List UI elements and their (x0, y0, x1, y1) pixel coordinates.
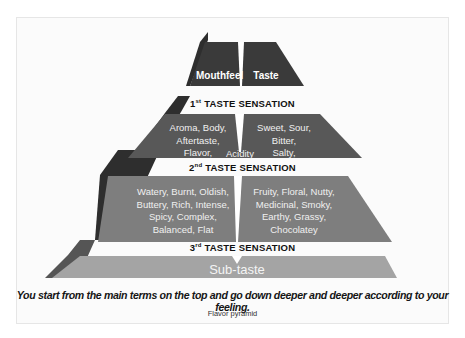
tier4-label: Sub-taste (187, 262, 287, 277)
tier3-right-line: Fruity, Floral, Nutty, (244, 186, 344, 199)
sensation-2-text: TASTE SENSATION (205, 162, 296, 173)
tier2-left-line: Aftertaste, (160, 135, 236, 148)
tier2-right-line: Salty, (246, 147, 322, 160)
tier3-left-line: Buttery, Rich, Intense, (130, 199, 236, 212)
tier2-left-line: Aroma, Body, (160, 122, 236, 135)
tier3-left-line: Balanced, Flat (130, 224, 236, 237)
tier2-right-terms: Sweet, Sour, Bitter, Salty, (246, 122, 322, 160)
sensation-3-suffix: rd (195, 242, 201, 248)
tier1-left-label: Mouthfeel (196, 70, 240, 81)
sensation-2-label: 2nd TASTE SENSATION (175, 162, 310, 173)
figure-caption: Flavor pyramid (0, 309, 465, 318)
tier3-left-line: Watery, Burnt, Oldish, (130, 186, 236, 199)
sensation-1-text: TASTE SENSATION (204, 98, 295, 109)
sensation-1-label: 1st TASTE SENSATION (180, 98, 305, 109)
tier3-right-line: Chocolatey (244, 224, 344, 237)
sensation-3-text: TASTE SENSATION (204, 242, 295, 253)
tier2-right-line: Sweet, Sour, (246, 122, 322, 135)
tier3-right-line: Earthy, Grassy, (244, 211, 344, 224)
tier3-left-terms: Watery, Burnt, Oldish, Buttery, Rich, In… (130, 186, 236, 236)
sensation-2-suffix: nd (195, 162, 203, 168)
sensation-1-suffix: st (196, 98, 202, 104)
tier1-right-label: Taste (246, 70, 286, 81)
tier3-left-line: Spicy, Complex, (130, 211, 236, 224)
tier3-right-line: Medicinal, Smoky, (244, 199, 344, 212)
tier3-right-terms: Fruity, Floral, Nutty, Medicinal, Smoky,… (244, 186, 344, 236)
tier2-right-line: Bitter, (246, 135, 322, 148)
sensation-3-label: 3rd TASTE SENSATION (175, 242, 310, 253)
